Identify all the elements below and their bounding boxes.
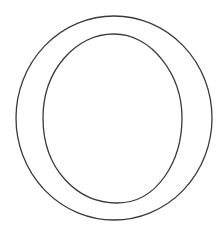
letter-o-drawing: Outline drawing of the letter O: an oute…: [0, 0, 219, 235]
inner-counter: [43, 34, 182, 203]
letter-o-svg: [0, 0, 219, 235]
